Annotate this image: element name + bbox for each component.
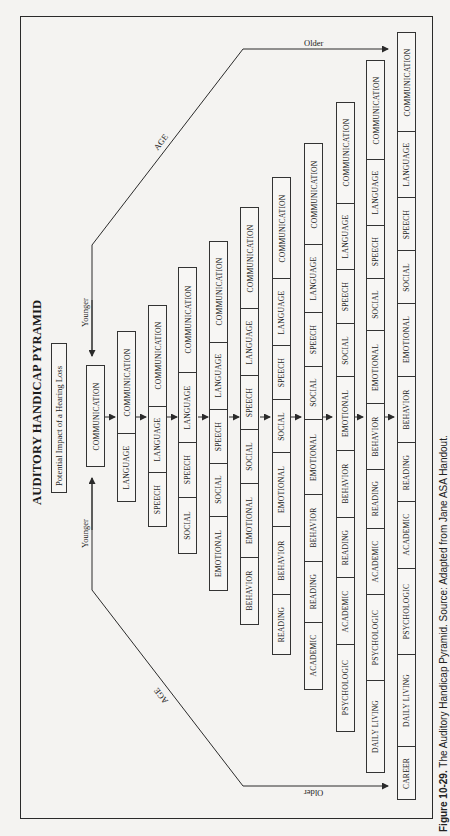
pyramid-cell-behavior: BEHAVIOR xyxy=(304,494,323,562)
pyramid-cell-daily-living: DAILY LIVING xyxy=(366,680,385,773)
pyramid-cell-speech: SPEECH xyxy=(209,409,228,464)
pyramid-cell-career: CAREER xyxy=(397,746,416,800)
pyramid-cell-social: SOCIAL xyxy=(304,366,323,421)
pyramid-cell-label: SPEECH xyxy=(183,455,192,484)
pyramid-cell-social: SOCIAL xyxy=(240,429,259,484)
pyramid-cell-label: COMMUNICATION xyxy=(183,286,192,354)
pyramid-cell-label: READING xyxy=(277,606,286,642)
pyramid-cell-label: BEHAVIOR xyxy=(341,464,350,504)
pyramid-cell-label: BEHAVIOR xyxy=(371,416,380,456)
pyramid-cell-label: COMMUNICATION xyxy=(277,194,286,262)
pyramid-cell-language: LANGUAGE xyxy=(117,433,136,502)
pyramid-cell-reading: READING xyxy=(397,442,416,502)
pyramid-cell-label: SOCIAL xyxy=(214,476,223,505)
caption-label: Figure 10-29. xyxy=(438,770,449,832)
pyramid-cell-label: EMOTIONAL xyxy=(371,344,380,391)
pyramid-cell-label: READING xyxy=(402,454,411,490)
pyramid-cell-language: LANGUAGE xyxy=(366,159,385,226)
pyramid-cell-psychologic: PSYCHOLOGIC xyxy=(366,594,385,681)
figure-caption: Figure 10-29. The Auditory Handicap Pyra… xyxy=(438,435,449,832)
pyramid-cell-label: SOCIAL xyxy=(183,511,192,540)
pyramid-cell-language: LANGUAGE xyxy=(148,406,167,474)
pyramid-cell-label: SOCIAL xyxy=(277,412,286,441)
pyramid-column-6: BEHAVIOREMOTIONALSOCIALSPEECHLANGUAGECOM… xyxy=(240,208,259,625)
pyramid-cell-label: LANGUAGE xyxy=(183,385,192,429)
pyramid-cell-reading: READING xyxy=(366,469,385,529)
pyramid-cell-label: READING xyxy=(341,530,350,566)
pyramid-cell-emotional: EMOTIONAL xyxy=(366,330,385,404)
pyramid-cell-psychologic: PSYCHOLOGIC xyxy=(336,644,355,732)
pyramid-column-8: ACADEMICREADINGBEHAVIOREMOTIONALSOCIALSP… xyxy=(304,144,323,690)
pyramid-cell-emotional: EMOTIONAL xyxy=(397,303,416,377)
pyramid-cell-communication: COMMUNICATION xyxy=(397,32,416,132)
pyramid-cell-social: SOCIAL xyxy=(397,250,416,304)
pyramid-cell-language: LANGUAGE xyxy=(272,278,291,346)
pyramid-cell-communication: COMMUNICATION xyxy=(366,60,385,160)
pyramid-cell-label: PSYCHOLOGIC xyxy=(371,610,380,665)
pyramid-cell-social: SOCIAL xyxy=(366,278,385,332)
pyramid-cell-speech: SPEECH xyxy=(336,269,355,323)
pyramid-cell-label: LANGUAGE xyxy=(309,257,318,301)
pyramid-cell-label: EMOTIONAL xyxy=(214,530,223,577)
pyramid-cell-behavior: BEHAVIOR xyxy=(272,526,291,594)
pyramid-cell-label: DAILY LIVING xyxy=(371,700,380,753)
pyramid-cell-label: EMOTIONAL xyxy=(245,497,254,544)
pyramid-cell-label: SPEECH xyxy=(153,485,162,514)
pyramid-cell-speech: SPEECH xyxy=(366,225,385,279)
pyramid-cell-label: LANGUAGE xyxy=(371,171,380,215)
pyramid-cell-communication: COMMUNICATION xyxy=(304,143,323,245)
pyramid-cell-label: SPEECH xyxy=(214,421,223,450)
pyramid-cell-label: EMOTIONAL xyxy=(277,466,286,513)
pyramid-cell-label: ACADEMIC xyxy=(402,514,411,556)
pyramid-column-11: CAREERDAILY LIVINGPSYCHOLOGICACADEMICREA… xyxy=(397,33,416,800)
pyramid-cell-label: BEHAVIOR xyxy=(245,571,254,611)
pyramid-column-5: EMOTIONALSOCIALSPEECHLANGUAGECOMMUNICATI… xyxy=(209,242,228,591)
pyramid-cell-label: LANGUAGE xyxy=(153,418,162,462)
pyramid-cell-label: BEHAVIOR xyxy=(277,541,286,581)
pyramid-cell-label: BEHAVIOR xyxy=(309,508,318,548)
pyramid-cell-social: SOCIAL xyxy=(178,497,197,554)
pyramid-cell-reading: READING xyxy=(336,517,355,578)
pyramid-cell-behavior: BEHAVIOR xyxy=(366,403,385,470)
pyramid-cell-emotional: EMOTIONAL xyxy=(304,419,323,494)
older-label-bottom: Older xyxy=(304,788,323,798)
pyramid-cell-label: DAILY LIVING xyxy=(402,674,411,727)
pyramid-cell-label: COMMUNICATION xyxy=(153,322,162,390)
pyramid-cell-label: READING xyxy=(309,574,318,610)
pyramid-cell-communication: COMMUNICATION xyxy=(336,102,355,203)
pyramid-cell-label: ACADEMIC xyxy=(309,635,318,677)
caption-text: The Auditory Handicap Pyramid. Source: A… xyxy=(438,435,449,767)
pyramid-cell-label: BEHAVIOR xyxy=(402,389,411,429)
pyramid-cell-communication: COMMUNICATION xyxy=(117,331,136,434)
younger-label-bottom: Younger xyxy=(80,519,90,548)
pyramid-cell-academic: ACADEMIC xyxy=(366,528,385,595)
pyramid-cell-label: SOCIAL xyxy=(309,379,318,408)
pyramid-cell-language: LANGUAGE xyxy=(336,203,355,271)
pyramid-cell-label: EMOTIONAL xyxy=(341,390,350,437)
pyramid-cell-language: LANGUAGE xyxy=(397,131,416,198)
pyramid-cell-communication: COMMUNICATION xyxy=(240,207,259,309)
pyramid-cell-language: LANGUAGE xyxy=(304,244,323,312)
pyramid-cell-label: ACADEMIC xyxy=(371,540,380,582)
pyramid-column-9: PSYCHOLOGICACADEMICREADINGBEHAVIOREMOTIO… xyxy=(336,103,355,732)
pyramid-cell-label: SOCIAL xyxy=(341,336,350,365)
pyramid-cell-label: LANGUAGE xyxy=(245,320,254,364)
pyramid-cell-label: SPEECH xyxy=(371,237,380,266)
pyramid-cell-communication: COMMUNICATION xyxy=(209,241,228,343)
pyramid-cell-reading: READING xyxy=(272,594,291,655)
pyramid-cell-psychologic: PSYCHOLOGIC xyxy=(397,568,416,655)
pyramid-cell-behavior: BEHAVIOR xyxy=(336,450,355,518)
pyramid-cell-speech: SPEECH xyxy=(272,345,291,400)
pyramid-column-7: READINGBEHAVIOREMOTIONALSOCIALSPEECHLANG… xyxy=(272,178,291,655)
pyramid-cell-social: SOCIAL xyxy=(336,323,355,377)
pyramid-cell-academic: ACADEMIC xyxy=(304,622,323,690)
pyramid-cell-academic: ACADEMIC xyxy=(336,577,355,645)
pyramid-cell-emotional: EMOTIONAL xyxy=(209,516,228,591)
pyramid-cell-label: ACADEMIC xyxy=(341,590,350,632)
pyramid-cell-communication: COMMUNICATION xyxy=(86,365,105,467)
pyramid-cell-language: LANGUAGE xyxy=(240,308,259,376)
pyramid-cell-label: SPEECH xyxy=(341,282,350,311)
pyramid-cell-label: LANGUAGE xyxy=(122,446,131,490)
pyramid-column-3: SPEECHLANGUAGECOMMUNICATION xyxy=(148,306,167,527)
pyramid-cell-behavior: BEHAVIOR xyxy=(397,376,416,443)
